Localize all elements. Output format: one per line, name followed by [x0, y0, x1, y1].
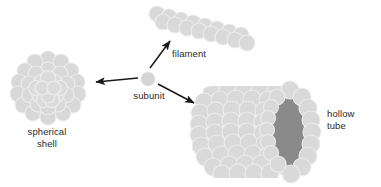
label-spherical-shell: spherical shell	[8, 126, 86, 149]
assembly-diagram	[0, 0, 381, 187]
arrow-to-filament	[150, 41, 170, 68]
structure-filament	[149, 6, 255, 51]
label-filament: filament	[172, 48, 232, 60]
arrow-to-spherical-shell	[96, 78, 138, 82]
label-subunit: subunit	[118, 90, 180, 102]
structure-subunit	[141, 72, 155, 86]
label-hollow-tube: hollow tube	[327, 108, 379, 131]
structure-hollow-tube	[190, 80, 321, 183]
structure-spherical-shell	[10, 51, 86, 125]
figure-canvas: spherical shell filament subunit hollow …	[0, 0, 381, 187]
